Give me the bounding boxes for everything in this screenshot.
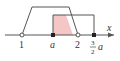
tick-label-3-den: 2 [91,48,95,56]
tick-label-3-var: a [98,41,103,52]
axis-label-x: x [106,22,112,33]
tick-label-3-num: 3 [91,39,95,47]
tick-label-a: a [50,39,55,50]
shaded-overlap [53,15,73,35]
tick-label-1: 1 [19,39,24,50]
open-point-2 [76,33,80,37]
diagram: x 1 a 2 3 2 a [0,0,120,61]
axis-arrow-icon [108,33,114,38]
filled-point-3-2a [92,33,96,37]
tick-label-2: 2 [75,39,80,50]
filled-point-a [51,33,55,37]
open-point-1 [20,33,24,37]
